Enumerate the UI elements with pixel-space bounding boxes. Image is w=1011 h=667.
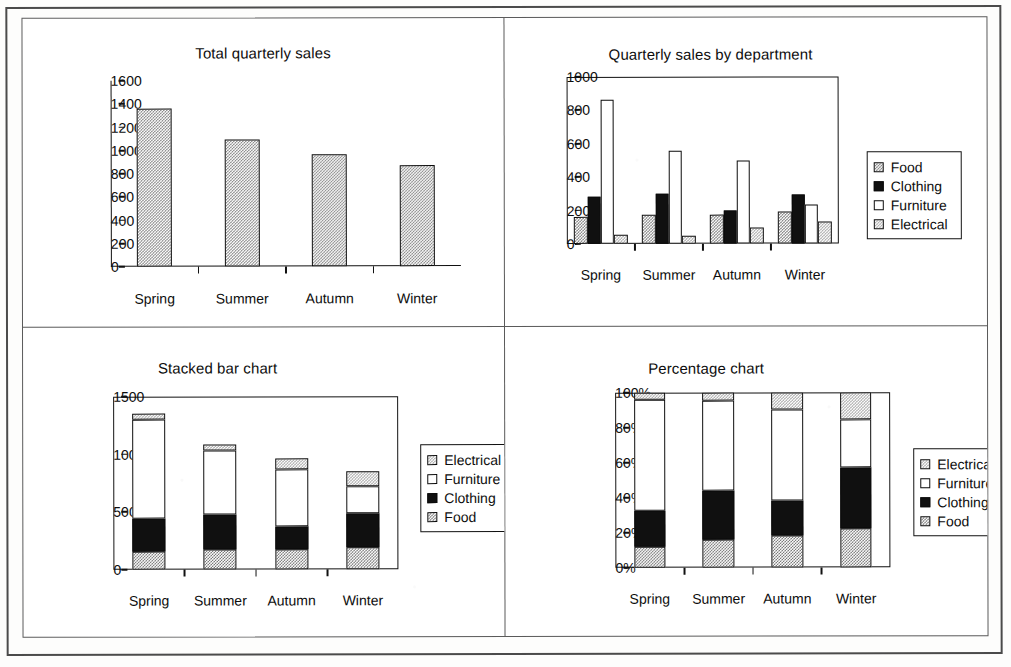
x-axis-label: Spring [630,591,670,607]
x-axis-label: Autumn [306,290,354,306]
x-tick-mark [197,267,199,274]
bar-spring-electrical [614,235,627,244]
y-tick-mark [575,109,581,111]
y-tick-label: 1400 [111,96,118,112]
y-tick-label: 500 [113,504,120,520]
x-tick-mark [821,567,823,574]
bars-total [22,18,503,19]
x-axis-label: Summer [692,591,745,607]
y-tick-label: 40% [615,490,622,506]
stacked-bar-winter [346,396,379,569]
segment-autumn-electrical [275,459,308,470]
y-axis-total: 02004006008001000120014001600 [22,18,503,19]
y-tick-label: 600 [567,136,574,152]
segment-autumn-furniture [275,470,308,527]
chart-title-total: Total quarterly sales [23,44,504,62]
bar-summer-furniture [669,151,682,244]
segment-summer-food [703,539,735,567]
y-tick-mark [623,392,629,394]
y-tick-mark [623,497,629,499]
segment-spring-clothing [634,511,666,547]
stacked-bar-spring [634,393,666,568]
legend-item-clothing[interactable]: Clothing [874,176,953,195]
bar-summer-electrical [682,235,695,243]
legend-item-furniture[interactable]: Furniture [427,469,503,488]
bar-spring-food [574,217,587,244]
legend-item-furniture[interactable]: Furniture [874,195,953,214]
legend-label: Furniture [891,198,947,212]
chart-total-quarterly-sales: Total quarterly sales 020040060080010001… [22,18,504,327]
chart-percentage: Percentage chart 0%20%40%60%80%100% Spri… [505,326,988,636]
bar-summer-food [642,215,655,244]
chart-quarterly-sales-by-department: Quarterly sales by department 0200400600… [504,17,987,326]
segment-spring-electrical [634,393,666,400]
y-tick-mark [119,242,125,244]
x-axis-label: Spring [129,593,169,609]
y-tick-label: 1000 [567,69,574,85]
stacked-bar-autumn [771,392,803,567]
y-axis-grouped: 02004006008001000 [504,17,986,18]
legend-grouped: FoodClothingFurnitureElectrical [867,151,962,239]
x-tick-mark [184,570,186,577]
bar-spring-clothing [588,197,601,244]
segment-summer-clothing [204,515,237,550]
x-axis-label: Spring [134,291,174,307]
legend-item-furniture[interactable]: Furniture [920,473,987,492]
segment-spring-food [133,551,166,570]
legend-swatch-icon [874,162,884,172]
x-axis-label: Winter [397,290,437,306]
y-tick-label: 400 [111,212,118,228]
y-tick-label: 0 [111,259,118,275]
x-tick-mark [634,244,636,251]
segment-autumn-food [275,549,308,569]
y-tick-mark [623,567,629,569]
bars-grouped [504,17,986,18]
y-tick-label: 1000 [111,142,118,158]
bar-summer [224,140,259,267]
y-tick-label: 1000 [113,446,120,462]
y-tick-label: 0% [615,560,622,576]
bar-winter-furniture [805,204,818,243]
segment-spring-furniture [132,420,165,519]
legend-label: Clothing [444,491,495,505]
y-tick-mark [575,76,581,78]
y-tick-mark [119,219,125,221]
y-tick-mark [623,462,629,464]
segment-autumn-electrical [771,392,803,409]
segment-winter-electrical [840,392,872,419]
x-axis-label: Summer [642,267,695,283]
legend-item-electrical[interactable]: Electrical [874,214,953,233]
segment-autumn-clothing [275,527,308,550]
legend-item-clothing[interactable]: Clothing [427,488,503,507]
y-axis-percentage: 0%20%40%60%80%100% [505,326,987,327]
legend-swatch-icon [920,516,930,526]
segment-summer-electrical [702,393,734,401]
y-tick-label: 200 [567,202,574,218]
x-tick-mark [752,568,754,575]
stacked-bar-winter [840,392,872,567]
segment-summer-clothing [703,491,735,540]
y-tick-mark [575,143,581,145]
y-tick-label: 80% [615,420,622,436]
chart-grid: Total quarterly sales 020040060080010001… [21,16,988,638]
y-tick-label: 1200 [111,119,118,135]
legend-item-electrical[interactable]: Electrical [427,450,503,469]
legend-item-clothing[interactable]: Clothing [920,492,987,511]
legend-label: Food [444,510,476,524]
stacked-bar-spring [132,397,165,570]
segment-spring-furniture [634,400,666,511]
segment-winter-electrical [346,471,379,486]
legend-item-electrical[interactable]: Electrical [920,454,987,473]
legend-item-food[interactable]: Food [427,507,503,526]
legend-item-food[interactable]: Food [874,157,953,176]
chart-cell-total-quarterly-sales: Total quarterly sales 020040060080010001… [22,18,505,328]
legend-item-food[interactable]: Food [920,511,987,530]
segment-summer-food [204,549,237,569]
bar-autumn-electrical [750,228,763,244]
segment-winter-clothing [346,513,379,547]
y-tick-label: 100% [615,385,622,401]
y-tick-label: 0 [567,236,574,252]
segment-winter-food [346,547,379,569]
y-axis-stacked: 050010001500 [23,327,504,328]
legend-swatch-icon [427,512,437,522]
